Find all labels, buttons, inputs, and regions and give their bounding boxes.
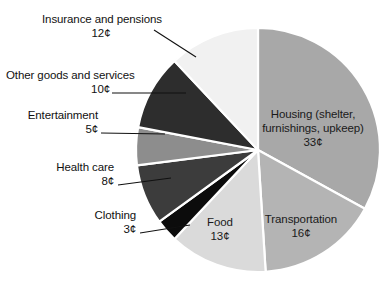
slice-label-food-value: 13¢ <box>194 230 246 244</box>
slice-label-food: Food 13¢ <box>194 216 246 244</box>
pie-chart: Insurance and pensions 12¢ Other goods a… <box>0 0 391 283</box>
slice-label-other-goods-and-services: Other goods and services 10¢ <box>6 68 110 96</box>
slice-label-food-name: Food <box>194 216 246 230</box>
slice-label-clothing-name: Clothing <box>42 208 136 222</box>
leader-line-insurance <box>154 30 196 57</box>
slice-label-health-care-value: 8¢ <box>6 174 114 188</box>
slice-label-transportation-value: 16¢ <box>253 227 349 241</box>
slice-label-entertainment-name: Entertainment <box>6 108 98 122</box>
slice-label-clothing-value: 3¢ <box>42 222 136 236</box>
slice-label-insurance-and-pensions: Insurance and pensions 12¢ <box>42 12 160 40</box>
slice-label-health-care: Health care 8¢ <box>6 160 114 188</box>
slice-label-clothing: Clothing 3¢ <box>42 208 136 236</box>
slice-label-transportation: Transportation 16¢ <box>253 213 349 241</box>
slice-label-other-goods-name: Other goods and services <box>6 68 110 82</box>
slice-label-health-care-name: Health care <box>6 160 114 174</box>
slice-label-entertainment-value: 5¢ <box>6 122 98 136</box>
slice-label-housing-name-line1: Housing (shelter, <box>250 108 376 122</box>
slice-label-other-goods-value: 10¢ <box>6 82 110 96</box>
slice-label-entertainment: Entertainment 5¢ <box>6 108 98 136</box>
slice-label-insurance-name: Insurance and pensions <box>42 12 160 26</box>
slice-label-housing-value: 33¢ <box>250 136 376 150</box>
slice-label-insurance-value: 12¢ <box>42 26 160 40</box>
slice-label-transportation-name: Transportation <box>253 213 349 227</box>
slice-label-housing: Housing (shelter, furnishings, upkeep) 3… <box>250 108 376 149</box>
slice-label-housing-name-line2: furnishings, upkeep) <box>250 122 376 136</box>
